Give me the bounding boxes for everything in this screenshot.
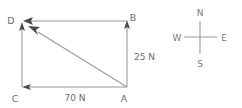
diagram-canvas: D B C A 25 N 70 N N S W E [0, 0, 242, 108]
compass-label-south: S [197, 59, 203, 69]
vector-a-to-d-resultant-arrowhead [28, 26, 40, 35]
vertex-label-c: C [12, 93, 19, 104]
compass-label-east: E [221, 33, 227, 43]
vertex-label-b: B [130, 12, 137, 23]
vector-a-to-d-resultant-line [38, 32, 127, 87]
magnitude-label-25n: 25 N [134, 52, 155, 62]
vector-diagram-figure: D B C A 25 N 70 N N S W E [0, 0, 242, 108]
compass-rose: N S W E [173, 8, 228, 69]
magnitude-label-70n: 70 N [64, 93, 85, 103]
compass-label-north: N [197, 8, 204, 18]
vertex-label-a: A [121, 93, 128, 104]
vertex-label-d: D [7, 15, 14, 26]
compass-label-west: W [173, 33, 182, 43]
vector-group [19, 17, 130, 90]
